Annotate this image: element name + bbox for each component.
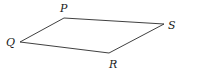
vertex-label-r: R xyxy=(108,58,117,71)
quadrilateral-diagram: P S R Q xyxy=(0,0,200,73)
vertex-label-s: S xyxy=(168,19,176,32)
vertex-label-q: Q xyxy=(6,36,15,49)
vertex-label-p: P xyxy=(59,2,68,15)
quadrilateral-pqrs xyxy=(20,18,164,53)
